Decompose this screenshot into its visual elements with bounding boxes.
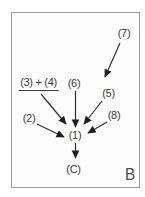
node-5: (5) [102, 87, 115, 98]
node-2: (2) [23, 113, 36, 124]
node-3-plus-4: (3) + (4) [18, 77, 59, 91]
figure-label: B [125, 165, 135, 182]
node-7: (7) [118, 28, 131, 39]
node-1: (1) [69, 129, 82, 140]
node-6: (6) [68, 78, 81, 89]
flow-diagram-panel: (7) (5) (3) + (4) (6) (2) (8) (1) (C) B [0, 0, 145, 197]
node-8: (8) [108, 110, 121, 121]
node-c: (C) [66, 164, 80, 175]
